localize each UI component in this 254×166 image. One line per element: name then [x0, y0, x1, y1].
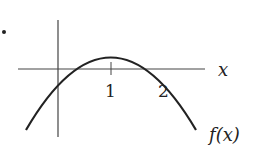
function-graph: 1 2 x f(x): [0, 0, 254, 166]
tick-label-2: 2: [158, 81, 169, 101]
bullet-point: [2, 30, 6, 34]
x-axis-label: x: [218, 59, 228, 80]
curve-label: f(x): [207, 124, 240, 145]
tick-label-1: 1: [105, 81, 116, 101]
